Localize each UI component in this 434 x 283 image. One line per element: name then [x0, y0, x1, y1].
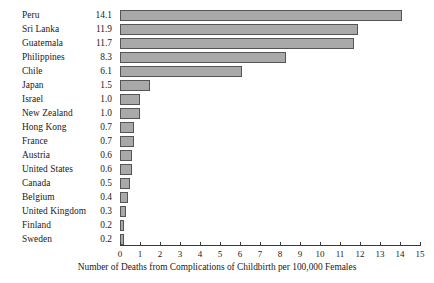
- value-label: 1.0: [60, 92, 112, 106]
- chart-row: France0.7: [0, 134, 434, 148]
- chart-rows: Peru14.1Sri Lanka11.9Guatemala11.7Philip…: [0, 8, 434, 246]
- bar: [120, 24, 358, 35]
- chart-row: Israel1.0: [0, 92, 434, 106]
- value-label: 0.6: [60, 148, 112, 162]
- chart-row: Philippines8.3: [0, 50, 434, 64]
- x-axis-tick: [280, 242, 281, 246]
- value-label: 8.3: [60, 50, 112, 64]
- bar: [120, 122, 134, 133]
- category-label: France: [22, 134, 48, 148]
- bar: [120, 178, 130, 189]
- x-axis-tick: [360, 242, 361, 246]
- bar: [120, 52, 286, 63]
- x-axis-tick: [420, 242, 421, 246]
- category-label: Guatemala: [22, 36, 63, 50]
- bar: [120, 220, 124, 231]
- x-axis-tick: [120, 242, 121, 246]
- category-label: Israel: [22, 92, 43, 106]
- value-label: 0.7: [60, 120, 112, 134]
- value-label: 6.1: [60, 64, 112, 78]
- value-label: 1.5: [60, 78, 112, 92]
- value-label: 0.7: [60, 134, 112, 148]
- value-label: 0.2: [60, 218, 112, 232]
- chart-row: Sri Lanka11.9: [0, 22, 434, 36]
- category-label: Peru: [22, 8, 39, 22]
- x-axis-title: Number of Deaths from Complications of C…: [0, 261, 434, 274]
- bar: [120, 150, 132, 161]
- value-label: 11.9: [60, 22, 112, 36]
- category-label: Philippines: [22, 50, 65, 64]
- category-label: Japan: [22, 78, 44, 92]
- x-axis-tick: [240, 242, 241, 246]
- bar-chart: Peru14.1Sri Lanka11.9Guatemala11.7Philip…: [0, 0, 434, 283]
- value-label: 0.6: [60, 162, 112, 176]
- value-label: 0.4: [60, 190, 112, 204]
- category-label: Chile: [22, 64, 43, 78]
- category-label: Sweden: [22, 232, 52, 246]
- x-axis-tick: [320, 242, 321, 246]
- chart-row: New Zealand1.0: [0, 106, 434, 120]
- chart-row: Hong Kong0.7: [0, 120, 434, 134]
- x-axis: [120, 245, 420, 246]
- x-axis-tick: [200, 242, 201, 246]
- x-axis-tick: [260, 242, 261, 246]
- chart-row: Finland0.2: [0, 218, 434, 232]
- category-label: Finland: [22, 218, 51, 232]
- chart-row: Guatemala11.7: [0, 36, 434, 50]
- bar: [120, 206, 126, 217]
- x-axis-tick: [180, 242, 181, 246]
- value-label: 1.0: [60, 106, 112, 120]
- category-label: Canada: [22, 176, 50, 190]
- bar: [120, 164, 132, 175]
- value-label: 0.2: [60, 232, 112, 246]
- bar: [120, 94, 140, 105]
- value-label: 0.3: [60, 204, 112, 218]
- bar: [120, 192, 128, 203]
- x-axis-tick: [160, 242, 161, 246]
- x-axis-tick: [300, 242, 301, 246]
- category-label: Austria: [22, 148, 50, 162]
- bar: [120, 136, 134, 147]
- bar: [120, 108, 140, 119]
- chart-row: Japan1.5: [0, 78, 434, 92]
- category-label: Sri Lanka: [22, 22, 59, 36]
- value-label: 14.1: [60, 8, 112, 22]
- chart-row: Chile6.1: [0, 64, 434, 78]
- chart-row: United States0.6: [0, 162, 434, 176]
- x-axis-tick-label: 15: [408, 248, 432, 260]
- x-axis-tick: [140, 242, 141, 246]
- category-label: Belgium: [22, 190, 55, 204]
- chart-row: Canada0.5: [0, 176, 434, 190]
- value-label: 11.7: [60, 36, 112, 50]
- x-axis-tick: [400, 242, 401, 246]
- bar: [120, 80, 150, 91]
- x-axis-tick: [220, 242, 221, 246]
- chart-row: United Kingdom0.3: [0, 204, 434, 218]
- bar: [120, 38, 354, 49]
- bar: [120, 10, 402, 21]
- value-label: 0.5: [60, 176, 112, 190]
- chart-row: Belgium0.4: [0, 190, 434, 204]
- bar: [120, 66, 242, 77]
- x-axis-tick: [340, 242, 341, 246]
- chart-row: Peru14.1: [0, 8, 434, 22]
- chart-row: Sweden0.2: [0, 232, 434, 246]
- x-axis-tick: [380, 242, 381, 246]
- chart-row: Austria0.6: [0, 148, 434, 162]
